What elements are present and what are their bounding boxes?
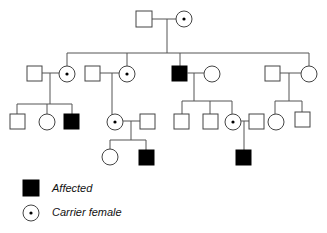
female-unaffected-IV-1 bbox=[102, 149, 118, 165]
male-unaffected-II-1 bbox=[27, 66, 42, 81]
male-unaffected-III-1 bbox=[10, 114, 25, 129]
carrier-dot-icon bbox=[231, 120, 234, 123]
generation-3 bbox=[10, 101, 310, 150]
male-affected-IV-3 bbox=[236, 150, 251, 165]
male-unaffected-I-1 bbox=[136, 11, 152, 27]
female-unaffected-III-2 bbox=[39, 114, 55, 130]
affected-legend-icon bbox=[23, 180, 39, 196]
carrier-dot-icon bbox=[182, 17, 185, 20]
male-affected-III-3 bbox=[64, 114, 79, 129]
male-unaffected-III-5 bbox=[140, 114, 155, 129]
male-unaffected-II-3 bbox=[85, 66, 100, 81]
carrier-dot-icon bbox=[65, 72, 68, 75]
legend-affected-label: Affected bbox=[52, 182, 92, 194]
carrier-dot-icon bbox=[29, 211, 32, 214]
female-unaffected-III-10 bbox=[268, 114, 284, 130]
generation-2 bbox=[27, 66, 317, 117]
legend-carrier-label: Carrier female bbox=[52, 206, 122, 218]
carrier-dot-icon bbox=[125, 72, 128, 75]
pedigree-chart bbox=[0, 0, 327, 233]
male-affected-II-5 bbox=[172, 66, 187, 81]
male-unaffected-III-6 bbox=[174, 114, 189, 129]
female-unaffected-II-6 bbox=[204, 66, 220, 82]
male-affected-IV-2 bbox=[139, 150, 154, 165]
male-unaffected-III-7 bbox=[203, 114, 218, 129]
legend bbox=[23, 180, 39, 221]
male-unaffected-II-7 bbox=[265, 66, 280, 81]
male-unaffected-III-11 bbox=[295, 112, 310, 127]
generation-1 bbox=[136, 11, 192, 53]
generation-4 bbox=[102, 140, 251, 165]
female-unaffected-II-8 bbox=[301, 66, 317, 82]
carrier-dot-icon bbox=[113, 120, 116, 123]
male-unaffected-III-9 bbox=[249, 114, 264, 129]
